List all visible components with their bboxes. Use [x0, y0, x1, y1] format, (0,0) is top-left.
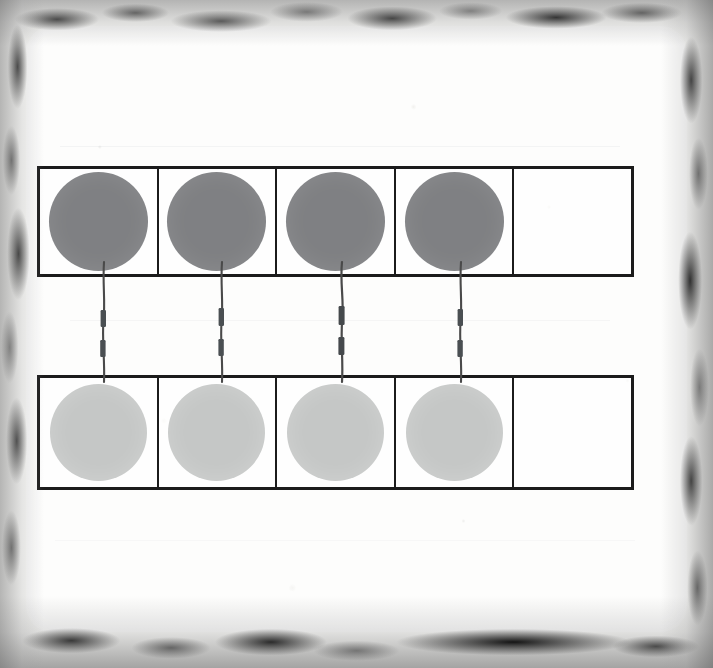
top-five-frame: [37, 166, 634, 277]
bottom-cell-5-empty[interactable]: [514, 378, 631, 487]
top-cell-3[interactable]: [277, 169, 396, 274]
worksheet-scan-page: Ten-Frame Matching Worksheet (scanned): [0, 0, 713, 668]
paper-sheet: [26, 26, 687, 632]
bottom-counter-2[interactable]: [168, 384, 265, 481]
bottom-cell-2[interactable]: [159, 378, 278, 487]
top-cell-1[interactable]: [40, 169, 159, 274]
bottom-counter-5-empty: [524, 384, 621, 481]
page-title: Ten-Frame Matching Worksheet (scanned): [0, 0, 1, 1]
top-counter-2[interactable]: [167, 172, 266, 271]
bottom-five-frame: [37, 375, 634, 490]
bottom-counter-3[interactable]: [287, 384, 384, 481]
bottom-cell-1[interactable]: [40, 378, 159, 487]
bottom-counter-4[interactable]: [406, 384, 503, 481]
bottom-counter-1[interactable]: [50, 384, 147, 481]
top-counter-1[interactable]: [49, 172, 148, 271]
top-counter-5-empty: [523, 172, 622, 271]
top-counter-3[interactable]: [286, 172, 385, 271]
top-counter-4[interactable]: [405, 172, 504, 271]
top-cell-5-empty[interactable]: [514, 169, 631, 274]
bottom-cell-4[interactable]: [396, 378, 515, 487]
top-cell-4[interactable]: [396, 169, 515, 274]
top-cell-2[interactable]: [159, 169, 278, 274]
bottom-cell-3[interactable]: [277, 378, 396, 487]
